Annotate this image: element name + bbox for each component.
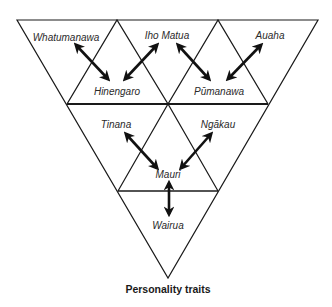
arrow-auaha-pumanawa: [228, 45, 261, 79]
figure-caption: Personality traits: [125, 283, 210, 295]
label-wairua: Wairua: [152, 220, 184, 231]
label-mauri: Mauri: [155, 169, 181, 180]
label-hinengaro: Hinengaro: [94, 86, 141, 97]
label-ngakau: Ngākau: [201, 119, 236, 130]
arrow-ngakau-mauri: [181, 134, 211, 168]
label-tinana: Tinana: [101, 119, 132, 130]
grid-lines: [67, 20, 268, 191]
label-auaha: Auaha: [255, 30, 285, 41]
arrow-whatumanawa-hinengaro: [76, 45, 108, 79]
label-whatumanawa: Whatumanawa: [33, 32, 100, 43]
arrow-ihomatua-pumanawa: [178, 45, 209, 79]
label-iho-matua: Iho Matua: [145, 30, 190, 41]
label-pumanawa: Pūmanawa: [194, 86, 244, 97]
personality-traits-diagram: Whatumanawa Iho Matua Auaha Hinengaro Pū…: [0, 0, 332, 307]
outer-triangle: [17, 20, 318, 278]
arrow-tinana-mauri: [126, 134, 157, 168]
arrow-ihomatua-hinengaro: [125, 45, 157, 79]
